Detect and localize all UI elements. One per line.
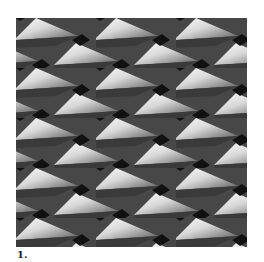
- pattern-fill: [16, 18, 247, 247]
- figure-caption: 1.: [17, 250, 27, 260]
- woven-pattern-figure: [16, 18, 247, 247]
- pattern-graphic: [16, 18, 247, 247]
